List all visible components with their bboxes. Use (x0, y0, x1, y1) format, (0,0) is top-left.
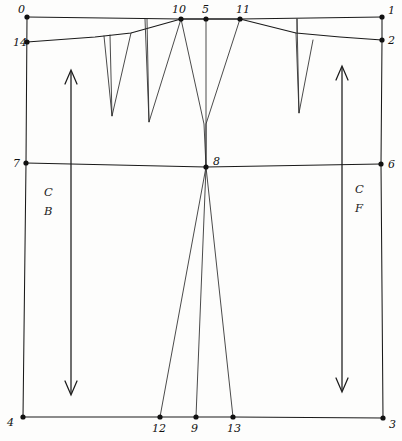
zone-label-center-back: CB (43, 185, 53, 218)
point-marker-11 (237, 16, 242, 21)
point-marker-3 (380, 415, 385, 420)
point-label-group: 01234567891011121314 (6, 3, 396, 435)
grain-line-back (65, 70, 77, 395)
princess-seam-back-line (160, 19, 206, 417)
pattern-outline-group (23, 17, 383, 418)
point-marker-5 (203, 16, 208, 21)
point-marker-4 (20, 414, 25, 419)
zone-label-center-front: CF (354, 182, 364, 215)
zone-label-group: CBCF (43, 182, 364, 218)
left-dart-outer-legs (104, 33, 131, 116)
center-vertical-line (196, 19, 206, 417)
dart-group (104, 19, 313, 122)
point-label-2: 2 (387, 34, 395, 47)
point-marker-6 (378, 161, 383, 166)
point-label-4: 4 (6, 416, 14, 429)
pattern-diagram-canvas: 01234567891011121314 CBCF (0, 0, 402, 441)
point-label-12: 12 (152, 422, 166, 435)
grain-line-front (336, 66, 348, 392)
point-label-1: 1 (388, 4, 395, 17)
princess-seam-front-line (206, 19, 240, 417)
point-marker-7 (23, 160, 28, 165)
point-label-0: 0 (18, 3, 25, 16)
point-marker-1 (379, 14, 384, 19)
point-marker-9 (193, 414, 198, 419)
point-label-5: 5 (202, 3, 209, 16)
point-marker-10 (178, 16, 183, 21)
point-label-6: 6 (388, 158, 395, 171)
point-label-13: 13 (227, 422, 241, 435)
point-marker-2 (379, 37, 384, 42)
point-marker-8 (203, 164, 208, 169)
left-edge-center-back-line (23, 17, 27, 417)
pattern-drawing: 01234567891011121314 CBCF (0, 0, 402, 441)
mid-dart-vertical-leg (145, 19, 181, 122)
upper-chest-line (181, 19, 382, 40)
point-label-3: 3 (389, 418, 396, 431)
hem-line (23, 417, 383, 418)
point-label-10: 10 (172, 3, 186, 16)
point-marker-12 (157, 414, 162, 419)
point-marker-13 (230, 414, 235, 419)
point-marker-0 (24, 14, 29, 19)
point-label-11: 11 (236, 3, 250, 16)
point-label-9: 9 (191, 422, 198, 435)
point-label-7: 7 (13, 157, 20, 170)
right-edge-center-front-line (381, 17, 383, 418)
princess-seam-group (160, 19, 240, 417)
point-label-8: 8 (213, 155, 220, 168)
point-label-14: 14 (13, 36, 27, 49)
point-marker-group (20, 14, 385, 420)
